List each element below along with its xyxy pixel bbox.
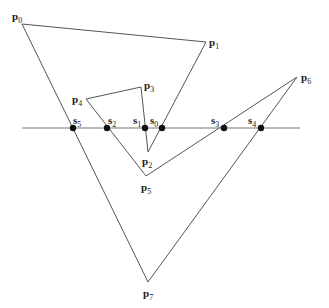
intersection-dot-s4 bbox=[258, 125, 264, 131]
vertex-label-p1: p1 bbox=[209, 36, 219, 51]
intersection-label-s0: s0 bbox=[150, 114, 158, 129]
vertex-label-p5: p5 bbox=[141, 181, 151, 196]
polygon-diagram: p0p1p2p3p4p5p6p7s0s1s2s3s4s5 bbox=[0, 0, 329, 308]
point-labels: p0p1p2p3p4p5p6p7s0s1s2s3s4s5 bbox=[12, 10, 311, 302]
vertex-label-p2: p2 bbox=[142, 155, 152, 170]
vertex-label-p0: p0 bbox=[12, 10, 22, 25]
intersection-dot-s1 bbox=[142, 125, 148, 131]
vertex-label-p3: p3 bbox=[144, 79, 154, 94]
vertex-label-p6: p6 bbox=[301, 71, 311, 86]
intersection-dot-s0 bbox=[159, 125, 165, 131]
intersection-label-s1: s1 bbox=[133, 114, 141, 129]
polygon-outline bbox=[22, 24, 297, 282]
vertex-label-p4: p4 bbox=[72, 93, 82, 108]
polygon-edges bbox=[22, 24, 297, 282]
intersection-dot-s3 bbox=[221, 125, 227, 131]
intersection-label-s4: s4 bbox=[248, 114, 256, 129]
vertex-label-p7: p7 bbox=[143, 287, 153, 302]
intersection-label-s3: s3 bbox=[211, 114, 219, 129]
